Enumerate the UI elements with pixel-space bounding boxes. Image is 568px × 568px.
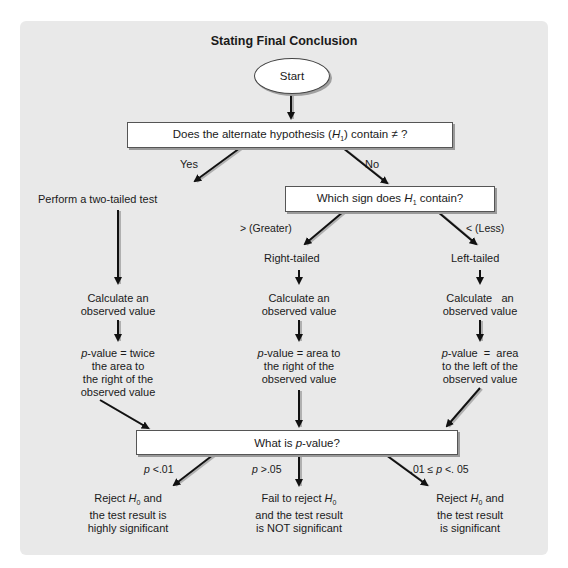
right-tailed-label: Right-tailed [264, 252, 320, 265]
no-label: No [365, 158, 379, 171]
greater-label: > (Greater) [240, 222, 292, 235]
cond-p-lt-01: p <.01 [144, 463, 174, 476]
yes-label: Yes [180, 158, 198, 171]
outcome-significant: Reject H0 and the test result is signifi… [410, 492, 530, 535]
outcome-highly-significant: Reject H0 and the test result is highly … [68, 492, 188, 535]
cond-p-between: .01 ≤ p <. 05 [410, 463, 469, 476]
decision-contains-not-equal: Does the alternate hypothesis (H1) conta… [127, 122, 453, 148]
arrow-greater [305, 212, 343, 244]
q2-text: Which sign does H1 contain? [317, 192, 463, 206]
outcome-not-significant: Fail to reject H0 and the test result is… [239, 492, 359, 535]
arrow-p-lt-01 [174, 455, 213, 485]
pvalue-two-tailed: p-value = twice the area to the right of… [58, 347, 178, 399]
pvalue-left-tailed: p-value = area to the left of the observ… [420, 347, 540, 386]
calc-left: Calculate anobserved value [68, 292, 168, 318]
q3-text: What is p-value? [254, 437, 340, 449]
left-tailed-label: Left-tailed [451, 252, 499, 265]
start-node: Start [254, 58, 330, 94]
q1-text: Does the alternate hypothesis (H1) conta… [173, 128, 408, 142]
calc-middle: Calculate anobserved value [249, 292, 349, 318]
pvalue-right-tailed: p-value = area to the right of the obser… [239, 347, 359, 386]
diagram-title: Stating Final Conclusion [0, 35, 568, 48]
two-tailed-step: Perform a two-tailed test [38, 193, 157, 206]
calc-right: Calculate anobserved value [430, 292, 530, 318]
less-label: < (Less) [466, 222, 504, 235]
start-label: Start [280, 70, 304, 82]
decision-what-is-pvalue: What is p-value? [136, 430, 458, 455]
cond-p-gt-05: p >.05 [252, 463, 282, 476]
arrow-yes [195, 148, 240, 181]
decision-which-sign: Which sign does H1 contain? [285, 186, 495, 212]
